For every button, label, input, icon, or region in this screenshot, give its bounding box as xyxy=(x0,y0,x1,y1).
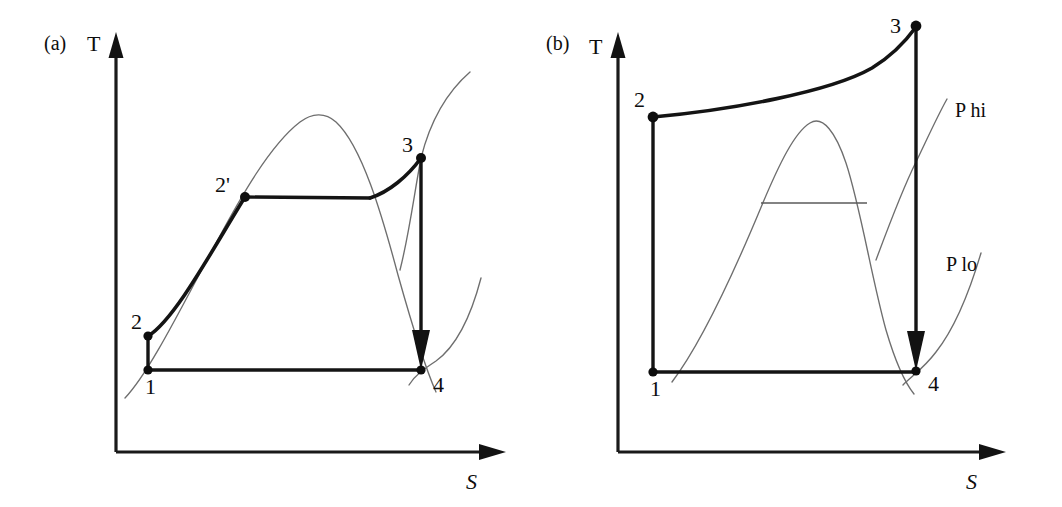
panel-b-state-label-4: 4 xyxy=(928,371,939,396)
panel-b-x-axis-arrowhead xyxy=(979,444,1006,460)
panel-a-state-label-4: 4 xyxy=(433,372,444,397)
panel-a-state-dot-3 xyxy=(416,153,426,163)
panel-b-state-label-2: 2 xyxy=(634,87,645,112)
panel-b-axes xyxy=(611,32,1007,460)
panel-b-isobar-label-low: P lo xyxy=(946,253,977,275)
panel-b-state-dot-3 xyxy=(911,21,922,32)
panel-a-state-label-1: 1 xyxy=(145,374,156,399)
panel-b-y-axis-arrowhead xyxy=(611,32,626,58)
panel-b-state-label-3: 3 xyxy=(890,13,901,38)
panel-b-state-label-1: 1 xyxy=(650,376,661,401)
panel-a-process-3-4-arrowhead xyxy=(412,330,430,370)
panel-a-x-axis-arrowhead xyxy=(479,444,506,460)
panel-a-y-axis-label: T xyxy=(87,31,101,56)
panel-a-state-dot-2prime xyxy=(240,192,250,202)
panel-a-process-evaporation xyxy=(245,197,370,198)
panel-b-saturation-dome xyxy=(672,121,914,394)
panel-a-y-axis-arrowhead xyxy=(109,32,124,58)
panel-b-process-3-4-arrowhead xyxy=(907,331,925,371)
panel-a-saturation-dome xyxy=(125,115,436,398)
panel-a-process-2-2prime xyxy=(148,197,245,336)
panel-b-state-dot-2 xyxy=(648,112,659,123)
panel-b-isobar-high xyxy=(876,99,947,260)
panel-a-state-label-2: 2 xyxy=(131,309,142,334)
panel-a-x-axis-label: S xyxy=(466,469,477,494)
panel-a-state-dot-2 xyxy=(143,331,152,340)
figure-root: (a) T S 1 2 2' 3 4 xyxy=(0,0,1062,507)
ts-diagram-svg: (a) T S 1 2 2' 3 4 xyxy=(0,0,1062,507)
panel-b-y-axis-label: T xyxy=(589,34,603,59)
panel-a-process-superheat-3 xyxy=(370,158,421,198)
panel-a-axes xyxy=(109,32,507,460)
panel-a-state-dot-4 xyxy=(416,365,425,374)
panel-a-state-label-3: 3 xyxy=(402,132,413,157)
panel-b-x-axis-label: S xyxy=(966,469,977,494)
panel-a-label: (a) xyxy=(44,32,66,55)
panel-b-isobar-label-high: P hi xyxy=(955,99,986,121)
panel-b-label: (b) xyxy=(546,32,569,55)
panel-a: (a) T S 1 2 2' 3 4 xyxy=(44,31,506,494)
panel-b: (b) T S 1 2 3 4 P hi P lo xyxy=(546,13,1006,494)
panel-a-state-label-2prime: 2' xyxy=(215,172,230,197)
panel-b-state-dot-4 xyxy=(911,366,920,375)
panel-b-process-2-3 xyxy=(653,27,916,117)
